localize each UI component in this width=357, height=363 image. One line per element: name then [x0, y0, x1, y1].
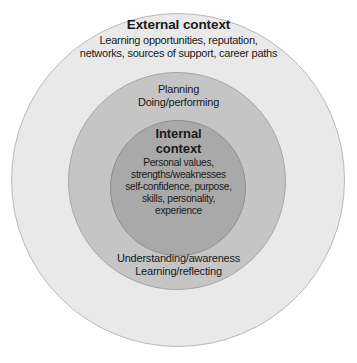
internal-context-heading-line-1: Internal: [0, 127, 357, 142]
external-context-line-2: networks, sources of support, career pat…: [0, 47, 357, 60]
internal-context-line-2: strengths/weaknesses: [0, 169, 357, 181]
external-context-heading: External context: [0, 17, 357, 33]
concentric-context-diagram: External context Learning opportunities,…: [0, 0, 357, 363]
internal-context-line-4: skills, personality,: [0, 193, 357, 205]
internal-context-body: Personal values, strengths/weaknesses se…: [0, 157, 357, 217]
internal-context-line-3: self-confidence, purpose,: [0, 181, 357, 193]
internal-context-caption: Internal context Personal values, streng…: [0, 127, 357, 217]
internal-context-line-5: experience: [0, 205, 357, 217]
process-layer-bottom-caption: Understanding/awareness Learning/reflect…: [0, 252, 357, 278]
process-bottom-line-2: Learning/reflecting: [0, 265, 357, 278]
process-top-line-1: Planning: [0, 83, 357, 96]
process-layer-top-caption: Planning Doing/performing: [0, 83, 357, 109]
process-top-line-2: Doing/performing: [0, 96, 357, 109]
external-context-line-1: Learning opportunities, reputation,: [0, 34, 357, 47]
internal-context-line-1: Personal values,: [0, 157, 357, 169]
internal-context-heading-line-2: context: [0, 142, 357, 157]
process-bottom-line-1: Understanding/awareness: [0, 252, 357, 265]
external-context-caption: External context Learning opportunities,…: [0, 17, 357, 60]
